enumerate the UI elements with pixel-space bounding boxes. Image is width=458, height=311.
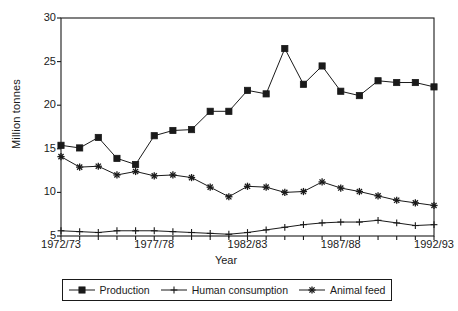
data-point-square [244, 87, 250, 93]
data-point-square [338, 88, 344, 94]
data-point-square [133, 161, 139, 167]
legend-entry: Production [69, 284, 150, 296]
y-axis-title: Million tonnes [10, 54, 22, 174]
data-point-square [188, 127, 194, 133]
data-point-square [263, 91, 269, 97]
series-production [58, 45, 437, 167]
data-point-square [58, 142, 64, 148]
data-point-square [226, 108, 232, 114]
series-line [61, 49, 434, 165]
y-axis-tick-label: 25 [26, 56, 56, 67]
data-point-square [431, 84, 437, 90]
y-axis-tick-label: 15 [26, 143, 56, 154]
x-axis-tick-label: 1972/73 [26, 239, 96, 250]
legend-entry: Human consumption [161, 284, 288, 296]
data-point-square [95, 134, 101, 140]
y-axis-tick-label: 30 [26, 12, 56, 23]
data-point-square [170, 127, 176, 133]
legend-marker-asterisk-icon [299, 284, 325, 296]
data-point-square [282, 45, 288, 51]
y-axis-tick-label: 10 [26, 186, 56, 197]
data-point-square [412, 79, 418, 85]
legend-label: Animal feed [330, 284, 385, 296]
data-point-square [375, 78, 381, 84]
x-axis-tick-label: 1982/83 [213, 239, 283, 250]
data-point-square [78, 287, 84, 293]
data-point-square [319, 63, 325, 69]
legend-label: Human consumption [192, 284, 288, 296]
chart-legend: ProductionHuman consumptionAnimal feed [62, 279, 392, 301]
legend-entry: Animal feed [299, 284, 385, 296]
x-axis-title: Year [0, 254, 452, 266]
data-point-square [356, 93, 362, 99]
legend-label: Production [100, 284, 150, 296]
data-point-square [77, 145, 83, 151]
x-axis-tick-label: 1992/93 [399, 239, 458, 250]
series-human-consumption [58, 217, 438, 238]
legend-marker-square-icon [69, 284, 95, 296]
y-axis-tick-label: 20 [26, 99, 56, 110]
data-point-square [394, 79, 400, 85]
x-axis-tick-label: 1987/88 [306, 239, 376, 250]
data-point-square [300, 81, 306, 87]
x-axis-tick-label: 1977/78 [119, 239, 189, 250]
data-point-square [207, 108, 213, 114]
data-point-square [151, 133, 157, 139]
plot-frame [61, 18, 434, 236]
data-point-square [114, 155, 120, 161]
legend-marker-plus-icon [161, 284, 187, 296]
